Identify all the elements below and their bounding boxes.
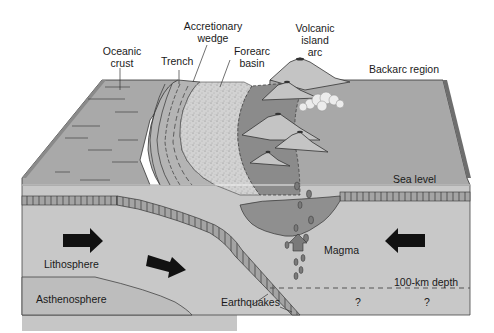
label-unknown-2: ? <box>424 296 430 308</box>
label-forearc-basin: Forearc basin <box>230 45 274 69</box>
label-unknown-1: ? <box>355 296 361 308</box>
label-asthenosphere: Asthenosphere <box>36 293 107 305</box>
label-trench: Trench <box>161 55 193 67</box>
label-line: island <box>290 34 340 46</box>
right-crust-band <box>340 192 470 201</box>
label-backarc-region: Backarc region <box>369 63 439 75</box>
label-line: wedge <box>182 32 244 44</box>
label-lithosphere: Lithosphere <box>44 258 99 270</box>
label-volcanic-island-arc: Volcanic island arc <box>290 22 340 58</box>
label-accretionary-wedge: Accretionary wedge <box>182 20 244 44</box>
label-line: Oceanic <box>100 45 144 57</box>
label-sea-level: Sea level <box>393 173 436 185</box>
label-line: arc <box>290 46 340 58</box>
label-line: crust <box>100 57 144 69</box>
label-line: Forearc <box>230 45 274 57</box>
label-earthquakes: Earthquakes <box>221 296 280 308</box>
label-oceanic-crust: Oceanic crust <box>100 45 144 69</box>
label-magma: Magma <box>324 244 359 256</box>
label-line: Volcanic <box>290 22 340 34</box>
label-depth: 100-km depth <box>394 276 458 288</box>
label-line: basin <box>230 57 274 69</box>
label-line: Accretionary <box>182 20 244 32</box>
left-oceanic-crust-band <box>22 196 117 205</box>
